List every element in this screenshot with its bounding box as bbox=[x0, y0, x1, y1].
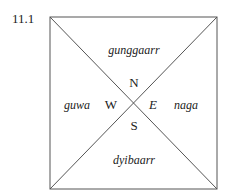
compass-n: N bbox=[129, 75, 138, 91]
compass-e: E bbox=[149, 97, 157, 113]
compass-s: S bbox=[130, 118, 137, 134]
south-term: dyibaarr bbox=[113, 153, 155, 168]
east-term: naga bbox=[174, 98, 198, 113]
north-term: gunggaarr bbox=[108, 43, 159, 58]
compass-w: W bbox=[105, 97, 117, 113]
west-term: guwa bbox=[64, 98, 90, 113]
